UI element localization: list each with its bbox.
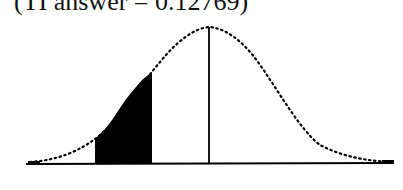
normal-curve-diagram [0, 0, 403, 190]
left-tail-mark [28, 161, 40, 164]
bell-curve [30, 27, 392, 162]
x-axis-baseline [26, 163, 394, 164]
right-tail-mark [382, 160, 394, 163]
shaded-probability-region [95, 72, 152, 163]
